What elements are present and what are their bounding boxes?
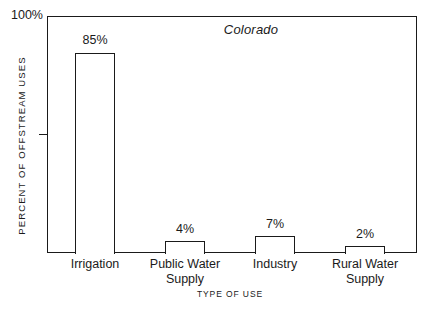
bar-irrigation: [75, 53, 115, 254]
x-axis-label-industry-line1: Industry: [225, 257, 325, 272]
x-axis-label-public-water-supply-line2: Supply: [135, 272, 235, 287]
bar-industry: [255, 236, 295, 254]
bar-value-public-water-supply: 4%: [155, 222, 215, 236]
bar-value-rural-water-supply: 2%: [335, 227, 395, 241]
x-axis-label-irrigation-line1: Irrigation: [45, 257, 145, 272]
bar-rural-water-supply: [345, 246, 385, 254]
y-axis-title: PERCENT OF OFFSTREAM USES: [16, 56, 27, 236]
bar-value-irrigation: 85%: [65, 33, 125, 47]
x-axis-label-industry: Industry: [225, 257, 325, 272]
x-axis-label-public-water-supply-line1: Public Water: [135, 257, 235, 272]
y-axis-midpoint-tick: [39, 134, 48, 135]
bar-public-water-supply: [165, 241, 205, 254]
x-axis-label-irrigation: Irrigation: [45, 257, 145, 272]
x-axis-title: TYPE OF USE: [175, 289, 285, 299]
x-axis-label-rural-water-supply: Rural Water Supply: [315, 257, 415, 287]
x-axis-label-rural-water-supply-line2: Supply: [315, 272, 415, 287]
bar-chart: Colorado 100% PERCENT OF OFFSTREAM USES …: [0, 0, 430, 311]
x-axis-label-public-water-supply: Public Water Supply: [135, 257, 235, 287]
y-axis-max-tick-label: 100%: [0, 8, 43, 22]
bar-value-industry: 7%: [245, 217, 305, 231]
x-axis-label-rural-water-supply-line1: Rural Water: [315, 257, 415, 272]
